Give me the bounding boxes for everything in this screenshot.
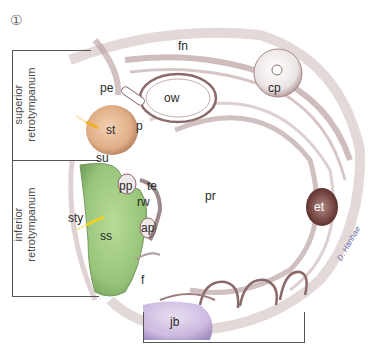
label-te: te xyxy=(147,180,157,192)
label-et: et xyxy=(314,201,324,213)
label-pr: pr xyxy=(205,190,216,202)
label-su: su xyxy=(96,152,109,164)
label-jb: jb xyxy=(170,316,179,328)
label-rw: rw xyxy=(137,196,150,208)
label-st: st xyxy=(106,124,115,136)
label-cp: cp xyxy=(268,82,281,94)
label-fn: fn xyxy=(178,40,188,52)
label-ap: ap xyxy=(141,222,154,234)
middle-ear-diagram: ① superior retrotympanum inferior retrot… xyxy=(0,0,370,347)
inferior-retrotympanum-label: inferior retrotympanum xyxy=(12,180,37,270)
label-sty: sty xyxy=(68,212,83,224)
label-ss: ss xyxy=(100,230,112,242)
figure-number: ① xyxy=(10,12,23,28)
superior-retrotympanum-label: superior retrotympanum xyxy=(12,60,37,150)
label-f: f xyxy=(141,274,144,286)
label-ow: ow xyxy=(164,92,179,104)
jugular-bulb-bracket xyxy=(143,312,305,343)
label-pe: pe xyxy=(100,82,113,94)
label-pp: pp xyxy=(119,180,132,192)
label-p: p xyxy=(136,120,143,132)
